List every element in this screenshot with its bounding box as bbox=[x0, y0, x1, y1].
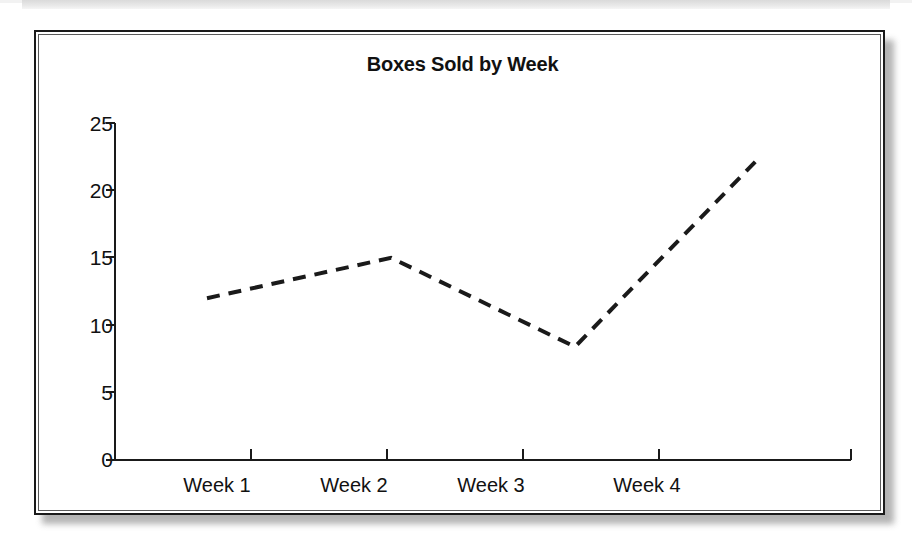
y-axis-ticks bbox=[106, 123, 115, 460]
chart-frame: Boxes Sold by Week 25 20 15 10 5 0 Week … bbox=[34, 30, 885, 515]
series-line-boxes-sold bbox=[207, 158, 759, 347]
chart-frame-inner-border: Boxes Sold by Week 25 20 15 10 5 0 Week … bbox=[38, 34, 881, 511]
x-axis-ticks bbox=[115, 449, 851, 460]
page-scan-strip bbox=[22, 0, 890, 9]
chart-canvas bbox=[39, 35, 886, 516]
chart-plot-area: Boxes Sold by Week 25 20 15 10 5 0 Week … bbox=[39, 35, 886, 516]
